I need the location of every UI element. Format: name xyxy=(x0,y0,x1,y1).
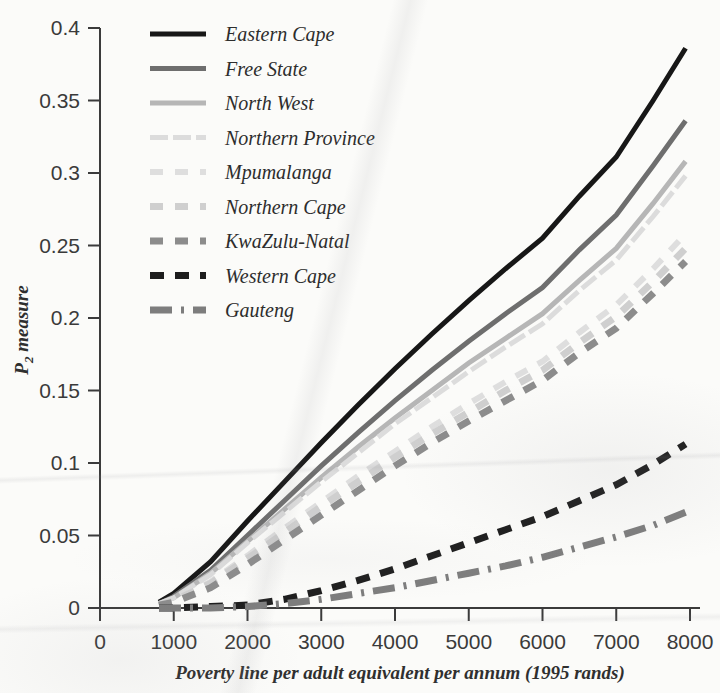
x-tick-label: 7000 xyxy=(593,630,640,653)
y-tick-label: 0.05 xyxy=(39,524,80,547)
legend-item-mpumalanga[interactable]: Mpumalanga xyxy=(150,161,332,184)
svg-text:P2 measure: P2 measure xyxy=(11,285,36,376)
series-line-north-west xyxy=(159,161,686,603)
legend: Eastern CapeFree StateNorth WestNorthern… xyxy=(150,23,375,322)
x-tick-label: 6000 xyxy=(519,630,566,653)
x-tick-label: 8000 xyxy=(667,630,714,653)
legend-label: North West xyxy=(224,92,314,114)
x-tick-label: 2000 xyxy=(224,630,271,653)
y-tick-label: 0.35 xyxy=(39,89,80,112)
y-tick-label: 0.4 xyxy=(51,16,81,39)
x-tick-label: 1000 xyxy=(150,630,197,653)
y-tick-label: 0.2 xyxy=(51,306,80,329)
y-tick-label: 0.1 xyxy=(51,451,80,474)
legend-item-kwazulu-natal[interactable]: KwaZulu-Natal xyxy=(150,230,350,252)
p2-measure-line-chart: 00.050.10.150.20.250.30.350.4 0100020003… xyxy=(0,0,720,693)
y-axis-title-main: P xyxy=(11,363,32,376)
legend-item-north-west[interactable]: North West xyxy=(150,92,314,114)
x-tick-label: 0 xyxy=(94,630,106,653)
legend-label: Eastern Cape xyxy=(224,23,335,46)
y-tick-label: 0 xyxy=(68,596,80,619)
x-tick-label: 3000 xyxy=(298,630,345,653)
legend-label: Northern Cape xyxy=(224,196,346,219)
y-axis-title: P2 measure xyxy=(11,285,36,376)
legend-label: KwaZulu-Natal xyxy=(224,230,350,252)
legend-label: Free State xyxy=(224,58,307,80)
x-tick-label: 5000 xyxy=(445,630,492,653)
x-tick-label: 4000 xyxy=(372,630,419,653)
legend-item-eastern-cape[interactable]: Eastern Cape xyxy=(150,23,335,46)
legend-label: Northern Province xyxy=(224,127,375,149)
y-tick-label: 0.15 xyxy=(39,379,80,402)
chart-container: 00.050.10.150.20.250.30.350.4 0100020003… xyxy=(0,0,720,693)
y-tick-label: 0.25 xyxy=(39,234,80,257)
x-axis-title: Poverty line per adult equivalent per an… xyxy=(174,662,625,684)
legend-label: Western Cape xyxy=(225,265,336,288)
legend-item-northern-province[interactable]: Northern Province xyxy=(150,127,375,149)
legend-item-northern-cape[interactable]: Northern Cape xyxy=(150,196,346,219)
y-axis-ticks xyxy=(88,28,100,608)
series-line-gauteng xyxy=(159,512,686,608)
legend-item-gauteng[interactable]: Gauteng xyxy=(150,299,294,322)
y-axis-tick-labels: 00.050.10.150.20.250.30.350.4 xyxy=(39,16,80,619)
legend-item-western-cape[interactable]: Western Cape xyxy=(150,265,336,288)
y-axis-title-tail: measure xyxy=(11,285,32,357)
legend-label: Gauteng xyxy=(225,299,294,322)
x-axis-tick-labels: 010002000300040005000600070008000 xyxy=(94,630,713,653)
y-tick-label: 0.3 xyxy=(51,161,80,184)
legend-label: Mpumalanga xyxy=(224,161,332,184)
legend-item-free-state[interactable]: Free State xyxy=(150,58,307,80)
